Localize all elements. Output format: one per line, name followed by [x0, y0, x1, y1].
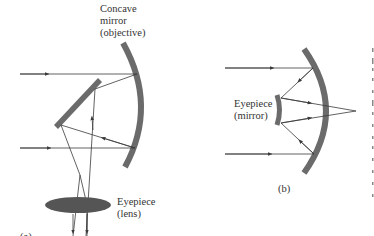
arrow-icon — [281, 98, 310, 103]
panel-a: Concave mirror (objective) Eyepiece (len… — [20, 3, 158, 236]
arrow-icon — [103, 138, 135, 148]
arrow-icon — [299, 68, 313, 81]
eyepiece-mirror-label: Eyepiece (mirror) — [234, 98, 275, 122]
panel-b: Eyepiece (mirror) (b) — [225, 49, 356, 195]
arrow-icon — [281, 118, 310, 123]
telescope-diagram: Concave mirror (objective) Eyepiece (len… — [0, 0, 374, 236]
panel-a-caption: (a) — [20, 231, 32, 236]
objective-label: Concave mirror (objective) — [100, 3, 146, 39]
arrow-icon — [300, 141, 314, 154]
cropped-edge-text — [372, 48, 374, 197]
ray-to-eyepiece-2 — [61, 125, 80, 175]
panel-b-caption: (b) — [278, 183, 291, 195]
eyepiece-lens — [45, 197, 111, 213]
eyepiece-mirror — [277, 95, 280, 125]
eyepiece-lens-label: Eyepiece (lens) — [117, 196, 158, 220]
